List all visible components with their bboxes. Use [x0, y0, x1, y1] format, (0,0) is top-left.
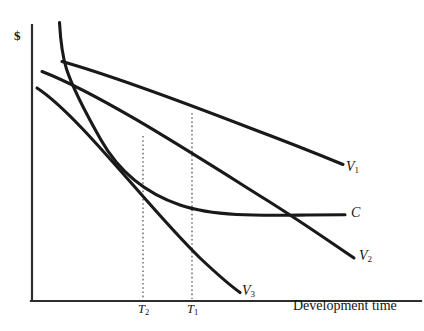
- curve-label-v3-sub: 3: [251, 289, 256, 299]
- curve-label-c-base: C: [351, 205, 360, 220]
- x-tick-label-t1-base: T: [187, 302, 194, 316]
- x-tick-label-t2-base: T: [138, 302, 145, 316]
- x-tick-label-t2-sub: 2: [145, 307, 149, 317]
- curve-label-v2-base: V: [359, 248, 368, 263]
- curve-label-c: C: [351, 206, 360, 220]
- x-axis-label: Development time: [293, 299, 397, 313]
- y-axis-label: $: [14, 29, 21, 42]
- curve-c: [60, 23, 346, 216]
- curve-v3: [37, 88, 240, 293]
- curve-label-v2: V2: [359, 249, 372, 263]
- x-tick-label-t1-sub: 1: [194, 307, 198, 317]
- chart-figure: $ Development time V1 C V2 V3 T2 T1: [0, 0, 424, 331]
- chart-canvas: [0, 0, 424, 331]
- curve-v2: [42, 72, 354, 259]
- curve-label-v1-base: V: [346, 159, 355, 174]
- curve-label-v1-sub: 1: [355, 165, 360, 175]
- x-tick-label-t1: T1: [187, 303, 198, 316]
- curve-v1: [62, 62, 343, 165]
- x-tick-label-t2: T2: [138, 303, 149, 316]
- curve-label-v2-sub: 2: [368, 254, 373, 264]
- curve-label-v3-base: V: [242, 283, 251, 298]
- curve-label-v3: V3: [242, 284, 255, 298]
- curve-label-v1: V1: [346, 160, 359, 174]
